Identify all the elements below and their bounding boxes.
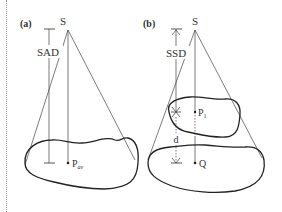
depth-label: d (174, 134, 179, 145)
beam-edge-right (68, 30, 135, 160)
point-pav-dot (67, 162, 70, 165)
panel-a-label: (a) (20, 18, 32, 30)
ssd-label: SSD (166, 47, 186, 59)
panel-b-label: (b) (143, 18, 155, 30)
point-q-dot (194, 162, 197, 165)
sad-label: SAD (37, 46, 59, 58)
point-q-label: Q (199, 158, 207, 169)
panel-b: (b) S SSD d P1 (143, 15, 264, 192)
point-p1-label: P1 (198, 107, 207, 119)
point-p1-dot (194, 111, 196, 113)
diagram-canvas: (a) S SAD Pav (b) S SSD (0, 0, 282, 212)
beam-edge-right-b (195, 30, 262, 158)
point-pav-label: Pav (72, 158, 84, 170)
panel-b-source-label: S (192, 15, 198, 27)
panel-a-source-label: S (60, 15, 66, 27)
panel-a: (a) S SAD Pav (20, 15, 138, 189)
